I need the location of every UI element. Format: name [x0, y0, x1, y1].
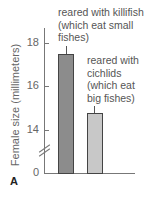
y-tick-label-18: 18	[25, 36, 39, 48]
panel-label: A	[10, 175, 18, 187]
annotation-killifish: reared with killifish (which eat small f…	[58, 6, 144, 44]
bar-cichlids	[87, 113, 103, 174]
y-tick-18	[44, 43, 49, 44]
y-tick-14	[44, 130, 49, 131]
bar-killifish	[58, 54, 74, 174]
annotation-cichlids: reared with cichlids (which eat big fish…	[87, 54, 139, 104]
y-tick-16	[44, 86, 49, 87]
y-tick-label-16: 16	[25, 79, 39, 91]
y-tick-label-0: 0	[25, 166, 39, 178]
y-tick-label-14: 14	[25, 123, 39, 135]
y-axis-label: Female size (millimeters)	[9, 44, 21, 166]
leader-line-killifish	[66, 46, 67, 54]
leader-line-cichlids	[94, 106, 95, 113]
